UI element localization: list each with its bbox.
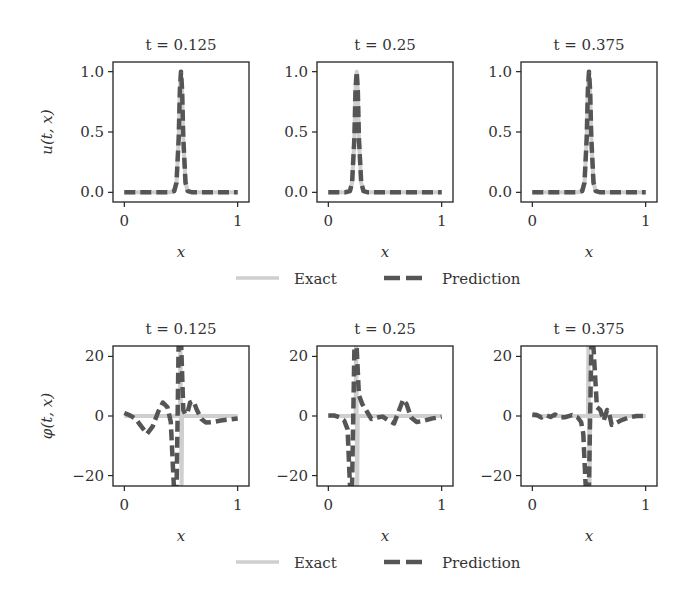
- subplot-1-1: t = 0.2501−20020x: [276, 320, 453, 545]
- x-tick-label: 0: [120, 212, 130, 230]
- subplot-title: t = 0.125: [145, 36, 216, 54]
- subplot-0-2: t = 0.375010.00.51.0x: [488, 36, 657, 261]
- plot-area: [328, 72, 441, 193]
- y-tick-label: 0: [94, 407, 104, 425]
- x-tick-label: 0: [324, 496, 334, 514]
- y-tick-label: 20: [289, 347, 308, 365]
- plot-area: [124, 72, 237, 193]
- subplot-title: t = 0.125: [145, 320, 216, 338]
- y-axis-label: u(t, x): [38, 109, 56, 155]
- subplot-grid: t = 0.125010.00.51.0xu(t, x)t = 0.25010.…: [38, 36, 657, 545]
- y-tick-label: 1.0: [488, 63, 512, 81]
- x-tick-label: 0: [120, 496, 130, 514]
- subplot-title: t = 0.25: [354, 320, 416, 338]
- x-tick-label: 1: [641, 212, 651, 230]
- legend-exact-label: Exact: [294, 270, 337, 288]
- y-tick-label: −20: [72, 467, 104, 485]
- y-tick-label: 0: [298, 407, 308, 425]
- y-tick-label: 1.0: [80, 63, 104, 81]
- x-axis-label: x: [381, 527, 390, 545]
- x-tick-label: 1: [641, 496, 651, 514]
- subplot-1-0: t = 0.12501−20020xφ(t, x): [38, 320, 249, 545]
- figure: t = 0.125010.00.51.0xu(t, x)t = 0.25010.…: [0, 0, 683, 599]
- y-tick-label: 0.0: [488, 183, 512, 201]
- x-tick-label: 1: [437, 212, 447, 230]
- plot-area: [328, 342, 441, 491]
- subplot-title: t = 0.375: [553, 320, 624, 338]
- y-axis-label: φ(t, x): [38, 393, 56, 439]
- y-tick-label: −20: [276, 467, 308, 485]
- y-tick-label: 0.0: [284, 183, 308, 201]
- x-tick-label: 1: [437, 496, 447, 514]
- y-tick-label: 20: [85, 347, 104, 365]
- legend-bottom: Exact Prediction: [236, 554, 521, 572]
- subplot-1-2: t = 0.37501−20020x: [480, 320, 657, 545]
- exact-line: [328, 72, 441, 193]
- x-tick-label: 1: [233, 212, 243, 230]
- x-axis-label: x: [585, 527, 594, 545]
- prediction-line: [124, 72, 237, 193]
- y-tick-label: 0: [502, 407, 512, 425]
- x-axis-label: x: [585, 243, 594, 261]
- subplot-title: t = 0.25: [354, 36, 416, 54]
- x-tick-label: 1: [233, 496, 243, 514]
- y-tick-label: 0.5: [80, 123, 104, 141]
- legend-top: Exact Prediction: [236, 270, 521, 288]
- prediction-line: [328, 72, 441, 193]
- legend-prediction-label: Prediction: [442, 554, 521, 572]
- y-tick-label: 1.0: [284, 63, 308, 81]
- y-tick-label: 20: [493, 347, 512, 365]
- prediction-line: [532, 72, 645, 193]
- plot-area: [532, 72, 645, 193]
- y-tick-label: 0.5: [488, 123, 512, 141]
- plot-area: [124, 339, 237, 494]
- y-tick-label: −20: [480, 467, 512, 485]
- subplot-0-0: t = 0.125010.00.51.0xu(t, x): [38, 36, 249, 261]
- x-tick-label: 0: [324, 212, 334, 230]
- legend-prediction-label: Prediction: [442, 270, 521, 288]
- x-axis-label: x: [177, 527, 186, 545]
- subplot-title: t = 0.375: [553, 36, 624, 54]
- axes-frame: [317, 62, 453, 202]
- subplot-0-1: t = 0.25010.00.51.0x: [284, 36, 453, 261]
- x-axis-label: x: [381, 243, 390, 261]
- y-tick-label: 0.0: [80, 183, 104, 201]
- y-tick-label: 0.5: [284, 123, 308, 141]
- x-tick-label: 0: [528, 212, 538, 230]
- x-axis-label: x: [177, 243, 186, 261]
- legend-exact-label: Exact: [294, 554, 337, 572]
- plot-area: [532, 342, 645, 491]
- x-tick-label: 0: [528, 496, 538, 514]
